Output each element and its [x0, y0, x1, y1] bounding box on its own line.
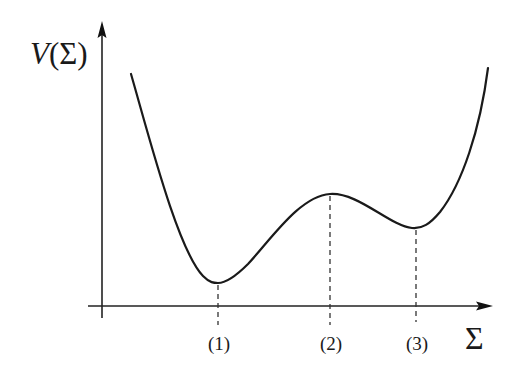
- point-label-2: (2): [320, 333, 342, 355]
- x-axis: [88, 302, 493, 311]
- potential-curve: [131, 68, 488, 283]
- point-label-3: (3): [406, 333, 428, 355]
- y-axis-label-var: V: [30, 36, 49, 71]
- y-axis: [98, 21, 107, 318]
- x-axis-label: Σ: [465, 320, 484, 357]
- y-axis-label-arg: (Σ): [49, 36, 88, 71]
- point-label-1: (1): [208, 333, 230, 355]
- y-axis-label: V(Σ): [30, 36, 88, 72]
